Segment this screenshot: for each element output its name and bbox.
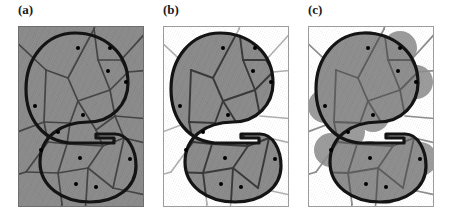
panel-b-label: (b) <box>163 2 179 18</box>
site-point <box>201 130 205 134</box>
site-point <box>366 46 370 50</box>
panel-a: (a) <box>0 0 150 221</box>
site-point <box>269 80 273 84</box>
site-point <box>108 46 112 50</box>
panel-a-content <box>18 26 144 207</box>
panel-a-svg <box>18 26 144 207</box>
site-point <box>223 156 227 160</box>
panel-c-svg <box>308 26 434 207</box>
site-point <box>76 46 80 50</box>
site-point <box>221 46 225 50</box>
site-point <box>418 157 422 161</box>
site-point <box>239 185 243 189</box>
site-point <box>364 182 368 186</box>
site-point <box>253 46 257 50</box>
panel-c-content <box>308 26 434 207</box>
site-point <box>346 130 350 134</box>
site-point <box>368 156 372 160</box>
site-point <box>56 130 60 134</box>
panel-c-label: (c) <box>308 2 322 18</box>
panel-b-content <box>163 26 289 207</box>
panel-c-canvas <box>308 26 434 207</box>
site-point <box>124 80 128 84</box>
site-point <box>414 80 418 84</box>
site-point <box>329 148 333 152</box>
panel-a-label: (a) <box>18 2 33 18</box>
panel-c: (c) <box>290 0 440 221</box>
site-point <box>184 148 188 152</box>
site-point <box>323 104 327 108</box>
site-point <box>33 104 37 108</box>
site-point <box>396 69 400 73</box>
site-point <box>226 113 230 117</box>
figure-container: (a) <box>0 0 452 221</box>
site-point <box>273 157 277 161</box>
site-point <box>74 182 78 186</box>
site-point <box>371 113 375 117</box>
site-point <box>106 69 110 73</box>
site-point <box>81 113 85 117</box>
site-point <box>128 157 132 161</box>
site-point <box>398 46 402 50</box>
panel-b-canvas <box>163 26 289 207</box>
site-point <box>78 156 82 160</box>
site-point <box>178 104 182 108</box>
panel-a-canvas <box>18 26 144 207</box>
panel-b: (b) <box>145 0 295 221</box>
site-point <box>94 185 98 189</box>
site-point <box>384 185 388 189</box>
site-point <box>39 148 43 152</box>
site-point <box>251 69 255 73</box>
site-point <box>219 182 223 186</box>
panel-b-svg <box>163 26 289 207</box>
